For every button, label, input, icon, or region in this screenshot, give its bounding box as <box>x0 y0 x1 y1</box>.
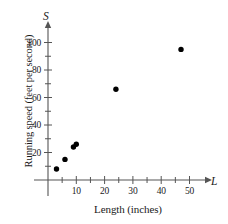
data-point-marker <box>113 87 118 92</box>
y-tick-label: 20 <box>32 148 41 158</box>
axes-group <box>34 21 212 196</box>
ticks-group <box>44 43 190 185</box>
y-tick-label: 40 <box>32 120 41 130</box>
y-tick-label: 80 <box>32 65 41 75</box>
y-axis-arrowhead <box>45 21 51 28</box>
data-point-marker <box>74 142 79 147</box>
x-tick-label: 30 <box>128 186 137 196</box>
data-point-marker <box>62 157 67 162</box>
x-tick-label: 20 <box>100 186 109 196</box>
scatter-plot-figure: Running speed (feet per second) Length (… <box>0 0 228 224</box>
data-point-marker <box>178 47 183 52</box>
data-markers-group <box>54 47 184 172</box>
x-tick-label: 40 <box>157 186 166 196</box>
y-tick-label: 60 <box>32 93 41 103</box>
x-tick-label: 10 <box>72 186 81 196</box>
x-axis-arrowhead <box>205 177 212 183</box>
x-tick-label: 50 <box>185 186 194 196</box>
data-point-marker <box>54 166 59 171</box>
y-tick-label: 100 <box>27 38 41 48</box>
